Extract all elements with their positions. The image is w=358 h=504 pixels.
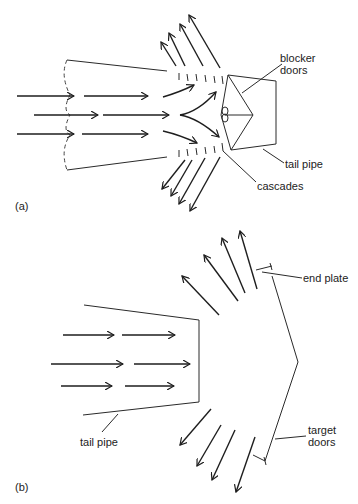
inflow-arrows — [17, 96, 169, 134]
figure-a: blocker doors tail pipe cascades (a) — [15, 15, 323, 212]
label-end-plate: end plate — [303, 272, 348, 284]
tail-pipe-b — [83, 305, 199, 415]
deflected-flow-down — [180, 409, 255, 492]
leader-end-plate — [262, 272, 302, 278]
reverse-flow-up — [161, 15, 220, 68]
reverse-flow-down — [162, 157, 220, 211]
blocker-doors — [221, 75, 253, 150]
turning-arrows — [163, 85, 219, 143]
exhaust-arrows — [51, 335, 190, 386]
label-tail-pipe-b: tail pipe — [80, 436, 118, 448]
label-target: target — [308, 424, 336, 436]
thrust-reverser-diagram: blocker doors tail pipe cascades (a) — [0, 0, 358, 504]
panel-label-b: (b) — [15, 481, 28, 493]
label-doors-b: doors — [308, 436, 336, 448]
panel-label-a: (a) — [15, 200, 28, 212]
label-doors: doors — [280, 64, 308, 76]
leader-tail-pipe-a — [263, 149, 284, 163]
figure-b: end plate target doors tail pipe (b) — [15, 231, 348, 493]
leader-target-doors — [275, 436, 306, 439]
label-cascades: cascades — [257, 180, 304, 192]
label-blocker: blocker — [280, 52, 316, 64]
leader-cascades — [223, 151, 256, 182]
deflected-flow-up — [182, 231, 257, 315]
leader-tail-pipe-b — [102, 414, 118, 432]
label-tail-pipe-a: tail pipe — [285, 158, 323, 170]
cascade-vanes — [179, 73, 223, 157]
target-doors — [253, 263, 298, 465]
